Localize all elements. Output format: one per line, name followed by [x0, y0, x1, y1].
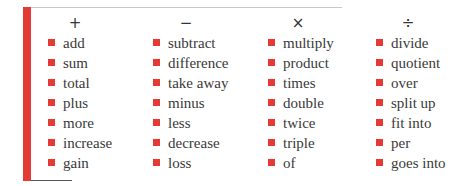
bullet-icon [153, 39, 160, 46]
bullet-icon [376, 119, 383, 126]
bullet-icon [153, 79, 160, 86]
bullet-icon [153, 139, 160, 146]
bullet-icon [48, 59, 55, 66]
top-divider [31, 7, 342, 8]
bullet-icon [48, 99, 55, 106]
left-accent-bar [23, 7, 31, 181]
bullet-icon [268, 139, 275, 146]
bullet-icon [376, 59, 383, 66]
bullet-icon [268, 59, 275, 66]
bullet-icon [153, 59, 160, 66]
minus-symbol: − [176, 13, 196, 33]
bottom-divider [31, 180, 72, 181]
divide-symbol: ÷ [398, 13, 418, 33]
bullet-icon [268, 159, 275, 166]
bullet-icon [153, 99, 160, 106]
bullet-icon [268, 39, 275, 46]
bullet-icon [376, 99, 383, 106]
bullet-icon [376, 159, 383, 166]
bullet-icon [268, 79, 275, 86]
bullet-icon [153, 119, 160, 126]
bullet-icon [48, 119, 55, 126]
bullet-icon [153, 159, 160, 166]
bullet-icon [268, 99, 275, 106]
plus-symbol: + [65, 13, 85, 33]
bullet-icon [376, 79, 383, 86]
bullet-icon [48, 159, 55, 166]
bullet-icon [48, 79, 55, 86]
bullet-icon [48, 139, 55, 146]
bullet-icon [48, 39, 55, 46]
times-symbol: × [288, 13, 308, 33]
bullet-icon [376, 139, 383, 146]
bullet-icon [376, 39, 383, 46]
bullet-icon [268, 119, 275, 126]
